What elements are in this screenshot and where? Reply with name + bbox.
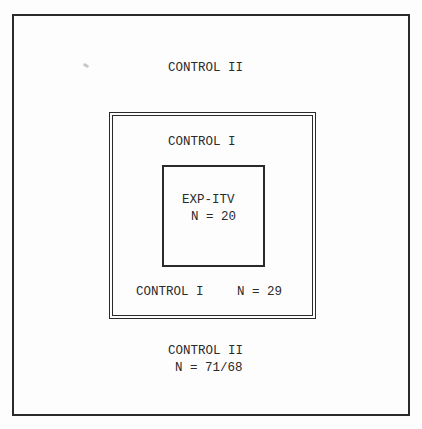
exp-itv-label: EXP-ITV: [182, 192, 235, 208]
control-ii-top-label: CONTROL II: [168, 60, 243, 76]
control-i-bottom-label: CONTROL I: [136, 284, 204, 300]
control-i-top-label: CONTROL I: [168, 134, 236, 150]
exp-itv-n: N = 20: [191, 209, 236, 225]
control-ii-bottom-label: CONTROL II: [168, 343, 243, 359]
control-i-n: N = 29: [237, 284, 282, 300]
diagram-canvas: CONTROL II CONTROL I EXP-ITV N = 20 CONT…: [0, 0, 422, 429]
control-ii-n: N = 71/68: [175, 360, 243, 376]
